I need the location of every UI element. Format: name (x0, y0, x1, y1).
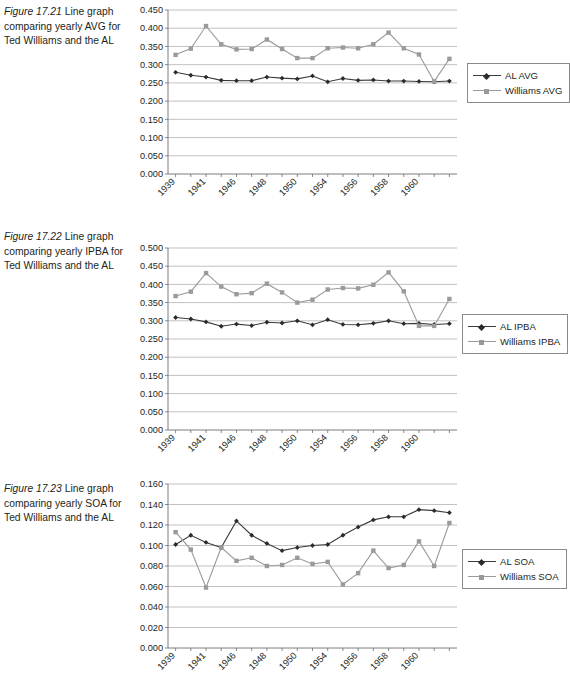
legend-key-diamond-icon (473, 71, 501, 81)
data-point-marker (265, 564, 269, 568)
x-axis-tick-label: 1941 (186, 432, 208, 454)
data-point-marker (325, 79, 330, 84)
legend-label: Williams IPBA (500, 334, 560, 349)
figure-caption: Figure 17.22 Line graph comparing yearly… (4, 230, 129, 274)
data-point-marker (310, 543, 315, 548)
x-axis-tick-label: 1946 (216, 650, 238, 672)
data-point-marker (310, 297, 314, 301)
y-axis-tick-label: 0.060 (140, 582, 163, 592)
data-point-marker (325, 317, 330, 322)
data-point-marker (204, 585, 208, 589)
y-axis-tick-label: 0.300 (140, 316, 163, 326)
data-point-marker (386, 270, 390, 274)
data-point-marker (356, 322, 361, 327)
data-point-marker (417, 324, 421, 328)
data-point-marker (189, 547, 193, 551)
series-line-williams (176, 26, 450, 81)
y-axis-tick-label: 0.250 (140, 334, 163, 344)
y-axis-tick-label: 0.250 (140, 78, 163, 88)
data-point-marker (204, 319, 209, 324)
data-point-marker (295, 76, 300, 81)
data-point-marker (310, 56, 314, 60)
data-point-marker (386, 30, 390, 34)
figure-number: Figure 17.22 (4, 231, 62, 242)
y-axis-tick-label: 0.000 (140, 425, 163, 435)
legend-item: AL AVG (473, 68, 562, 83)
legend-item: AL IPBA (468, 319, 560, 334)
data-point-marker (264, 541, 269, 546)
data-point-marker (188, 73, 193, 78)
x-axis-tick-label: 1939 (155, 176, 177, 198)
series-line-williams (176, 523, 450, 588)
data-point-marker (325, 542, 330, 547)
x-axis-tick-label: 1960 (399, 432, 421, 454)
y-axis-tick-label: 0.050 (140, 407, 163, 417)
data-point-marker (310, 74, 315, 79)
data-point-marker (173, 70, 178, 75)
data-point-marker (249, 556, 253, 560)
x-axis-tick-label: 1954 (308, 650, 330, 672)
y-axis-tick-label: 0.140 (140, 500, 163, 510)
data-point-marker (234, 292, 238, 296)
data-point-marker (432, 564, 436, 568)
y-axis-tick-label: 0.160 (140, 479, 163, 489)
data-point-marker (447, 321, 452, 326)
data-point-marker (173, 53, 177, 57)
data-point-marker (280, 47, 284, 51)
data-point-marker (173, 294, 177, 298)
data-point-marker (326, 560, 330, 564)
chart-plot-avg: 0.4500.4000.3500.3000.2500.2000.1500.100… (133, 2, 463, 212)
data-point-marker (447, 57, 451, 61)
data-point-marker (447, 297, 451, 301)
data-point-marker (219, 545, 223, 549)
data-point-marker (188, 533, 193, 538)
data-point-marker (326, 46, 330, 50)
data-point-marker (417, 52, 421, 56)
data-point-marker (189, 289, 193, 293)
data-point-marker (432, 508, 437, 513)
legend-label: Williams AVG (505, 83, 562, 98)
data-point-marker (219, 284, 223, 288)
x-axis-tick-label: 1954 (308, 432, 330, 454)
x-axis-tick-label: 1946 (216, 432, 238, 454)
y-axis-tick-label: 0.100 (140, 389, 163, 399)
data-point-marker (234, 559, 238, 563)
data-point-marker (264, 75, 269, 80)
data-point-marker (189, 46, 193, 50)
chart-plot-ipba: 0.5000.4500.4000.3500.3000.2500.2000.150… (133, 240, 463, 468)
data-point-marker (234, 322, 239, 327)
y-axis-tick-label: 0.350 (140, 42, 163, 52)
x-axis-tick-label: 1956 (338, 650, 360, 672)
data-point-marker (341, 582, 345, 586)
x-axis-tick-label: 1958 (368, 650, 390, 672)
data-point-marker (204, 540, 209, 545)
legend-item: AL SOA (468, 554, 559, 569)
data-point-marker (173, 530, 177, 534)
data-point-marker (310, 322, 315, 327)
data-point-marker (295, 318, 300, 323)
y-axis-tick-label: 0.400 (140, 23, 163, 33)
data-point-marker (356, 46, 360, 50)
data-point-marker (234, 47, 238, 51)
x-axis-tick-label: 1956 (338, 432, 360, 454)
data-point-marker (280, 76, 285, 81)
y-axis-tick-label: 0.300 (140, 60, 163, 70)
y-axis-tick-label: 0.080 (140, 561, 163, 571)
data-point-marker (219, 78, 224, 83)
figure-number: Figure 17.23 (4, 483, 62, 494)
data-point-marker (295, 300, 299, 304)
x-axis-tick-label: 1948 (247, 432, 269, 454)
y-axis-tick-label: 0.000 (140, 643, 163, 653)
data-point-marker (265, 37, 269, 41)
data-point-marker (386, 514, 391, 519)
y-axis-tick-label: 0.100 (140, 133, 163, 143)
legend-key-diamond-icon (468, 557, 496, 567)
data-point-marker (234, 78, 239, 83)
y-axis-tick-label: 0.200 (140, 96, 163, 106)
data-point-marker (280, 563, 284, 567)
data-point-marker (417, 539, 421, 543)
figure-caption: Figure 17.21 Line graph comparing yearly… (4, 5, 129, 49)
data-point-marker (204, 271, 208, 275)
legend-item: Williams AVG (473, 83, 562, 98)
data-point-marker (173, 315, 178, 320)
